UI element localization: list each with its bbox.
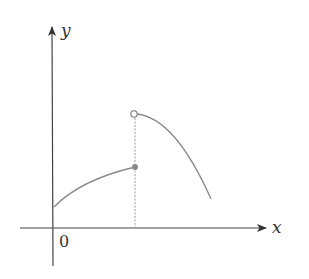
x-axis-label: x — [272, 217, 282, 237]
origin-label: 0 — [59, 232, 69, 251]
function-graph: y x 0 — [0, 0, 309, 279]
curve-left-piece — [54, 167, 135, 207]
filled-point — [132, 164, 138, 170]
open-circle-point — [131, 111, 137, 117]
graph-svg: y x 0 — [0, 0, 309, 279]
curve-right-piece — [137, 114, 211, 199]
y-axis — [52, 27, 53, 266]
y-axis-label: y — [60, 20, 71, 40]
